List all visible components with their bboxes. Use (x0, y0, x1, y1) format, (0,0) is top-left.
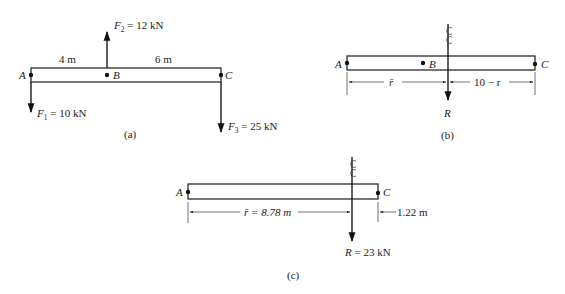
label-a: A (334, 58, 342, 70)
dimension-10-minus-r: 10 − r (474, 76, 501, 88)
figure-b: A B C r̄ 10 − r R (b) (334, 24, 549, 142)
point-c-marker (376, 191, 380, 195)
label-a: A (175, 186, 183, 198)
point-a-marker (186, 190, 190, 194)
label-c: C (541, 58, 549, 70)
dimension-ab: 4 m (59, 53, 76, 65)
caption-b: (b) (441, 129, 454, 142)
beam-b (347, 56, 535, 70)
force-f3-label: F3 = 25 kN (227, 120, 277, 135)
figure-a: A B C 4 m 6 m F2 = 12 kN F1 = 10 kN F3 =… (18, 19, 277, 141)
point-a-marker (345, 61, 349, 65)
force-f2-label: F2 = 12 kN (113, 19, 163, 34)
point-a-marker (29, 73, 33, 77)
label-b: B (113, 69, 120, 81)
beam-c (188, 184, 378, 199)
point-b-marker (421, 61, 425, 65)
resultant-r-label: R = 23 kN (344, 246, 391, 258)
dimension-bc: 6 m (155, 53, 172, 65)
point-c-marker (219, 73, 223, 77)
point-c-marker (533, 62, 537, 66)
resultant-r-label: R (443, 107, 451, 119)
caption-c: (c) (287, 269, 300, 282)
point-b-marker (105, 73, 109, 77)
label-c: C (225, 69, 233, 81)
dimension-r-bar: r̄ (389, 76, 394, 88)
caption-a: (a) (124, 128, 137, 141)
dimension-1-22: 1.22 m (397, 206, 428, 218)
label-b: B (429, 58, 436, 70)
label-c: C (383, 186, 391, 198)
beam-force-diagram: A B C 4 m 6 m F2 = 12 kN F1 = 10 kN F3 =… (0, 0, 565, 294)
force-f1-label: F1 = 10 kN (36, 107, 86, 122)
label-a: A (18, 69, 26, 81)
beam-a (31, 68, 221, 82)
dimension-r-bar-value: r̄ = 8.78 m (244, 206, 291, 218)
figure-c: A C r̄ = 8.78 m 1.22 m R = 23 kN (c) (175, 157, 428, 282)
